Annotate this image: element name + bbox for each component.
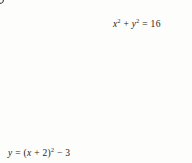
parabola-equation-label: y = (x + 2)2 − 3	[8, 148, 70, 159]
figure-canvas	[0, 0, 192, 163]
origin-marker	[0, 0, 3, 3]
circle-equation-label: x2 + y2 = 16	[113, 19, 161, 30]
math-figure: x2 + y2 = 16 y = (x + 2)2 − 3	[0, 0, 192, 163]
